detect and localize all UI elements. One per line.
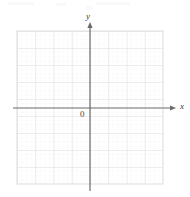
x-axis-arrowhead (170, 105, 176, 110)
scan-artifact (8, 2, 34, 5)
coordinate-grid-figure: y x 0 (0, 0, 190, 197)
origin-label: 0 (80, 110, 85, 119)
x-axis-label: x (180, 102, 184, 111)
graph-svg (0, 0, 190, 197)
y-axis-arrowhead (87, 22, 92, 28)
y-axis-label: y (86, 12, 90, 21)
scan-artifact (86, 6, 92, 10)
scan-artifact (96, 2, 130, 5)
scan-artifact (56, 3, 66, 6)
